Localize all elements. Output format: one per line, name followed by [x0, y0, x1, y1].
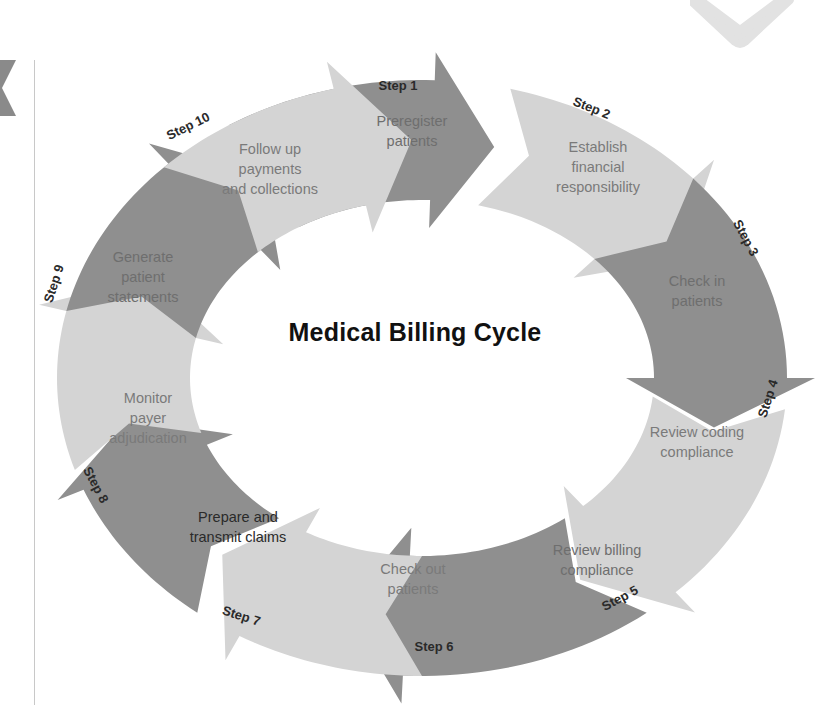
diagram-canvas: PreregisterpatientsStep 1Establishfinanc…	[0, 0, 830, 705]
diagram-title: Medical Billing Cycle	[0, 318, 830, 347]
step-1-label: Step 1	[378, 78, 417, 93]
cycle-arrows	[39, 52, 815, 703]
step-6-label: Step 6	[414, 639, 453, 654]
billing-cycle-ring: PreregisterpatientsStep 1Establishfinanc…	[0, 0, 830, 705]
step-9-label: Step 9	[41, 263, 67, 305]
step-10-label: Step 10	[164, 109, 212, 143]
